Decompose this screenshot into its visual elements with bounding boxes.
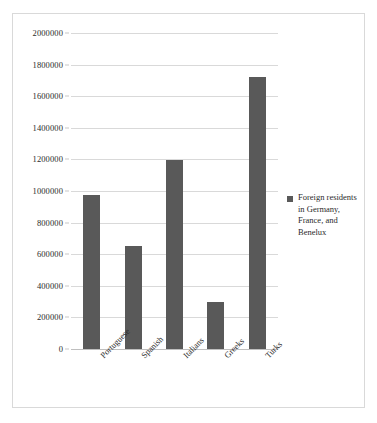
y-axis-tick-label: 1400000 (33, 123, 63, 133)
chart-frame: 0200000400000600000800000100000012000001… (12, 13, 365, 408)
y-axis-tick-mark (65, 33, 69, 34)
y-axis-tick-mark (65, 191, 69, 192)
y-axis-tick-label: 1600000 (33, 91, 63, 101)
y-axis-tick-label: 2000000 (33, 28, 63, 38)
chart-legend: Foreign residents in Germany, France, an… (287, 192, 363, 238)
y-axis-tick-label: 1000000 (33, 186, 63, 196)
legend-label: Foreign residents in Germany, France, an… (298, 192, 363, 238)
y-axis-tick-label: 400000 (37, 281, 63, 291)
y-axis-tick-label: 1800000 (33, 60, 63, 70)
legend-swatch-icon (287, 196, 293, 202)
y-axis-tick-mark (65, 349, 69, 350)
y-axis-tick-mark (65, 159, 69, 160)
y-axis-tick-mark (65, 254, 69, 255)
y-axis-tick-mark (65, 64, 69, 65)
bar-series (71, 33, 278, 349)
y-axis: 0200000400000600000800000100000012000001… (13, 33, 69, 349)
y-axis-tick-mark (65, 285, 69, 286)
y-axis-tick-label: 200000 (37, 312, 63, 322)
y-axis-tick-mark (65, 222, 69, 223)
plot-area (71, 33, 278, 349)
y-axis-tick-label: 800000 (37, 218, 63, 228)
y-axis-tick-label: 600000 (37, 249, 63, 259)
y-axis-tick-mark (65, 317, 69, 318)
bar (166, 160, 183, 349)
y-axis-tick-mark (65, 96, 69, 97)
x-axis: PortugueseSpanishItaliansGreeksTurks (71, 351, 278, 409)
bar (207, 302, 224, 349)
y-axis-tick-mark (65, 127, 69, 128)
bar (83, 195, 100, 349)
y-axis-tick-label: 0 (59, 344, 63, 354)
bar (249, 77, 266, 349)
y-axis-tick-label: 1200000 (33, 154, 63, 164)
